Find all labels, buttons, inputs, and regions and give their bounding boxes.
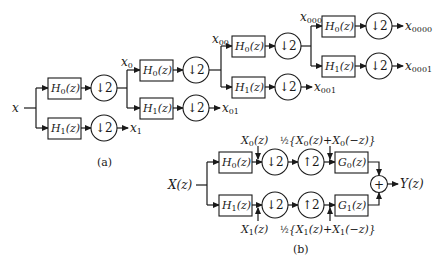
downsample-label: ↓2 (95, 81, 113, 95)
wire (368, 193, 379, 205)
downsample-label: ↓2 (279, 80, 297, 94)
h0-analysis-filter-label: H0(z) (221, 156, 251, 170)
annotation-X1: X1(z) (240, 223, 268, 237)
signal-x0000: x0000 (405, 19, 432, 34)
input-x-label: x (12, 101, 19, 115)
upsample-label: ↑2 (302, 198, 320, 212)
downsample-label: ↓2 (187, 63, 205, 77)
signal-x0001: x0001 (405, 59, 432, 74)
downsample-label: ↓2 (279, 39, 297, 53)
g0-synthesis-filter-label: G0(z) (338, 156, 366, 170)
h1-filter-stage3-label: H1(z) (234, 81, 264, 95)
g1-synthesis-filter-label: G1(z) (338, 199, 366, 213)
downsample-label: ↓2 (187, 101, 205, 115)
upsample-label: ↑2 (302, 155, 320, 169)
output-Yz-label: Y(z) (400, 177, 424, 191)
downsample-label: ↓2 (95, 121, 113, 135)
filter-bank-diagram: x H0(z) ↓2 H1(z) ↓2 x1 x0 H0(z) ↓2 H1(z) (0, 0, 444, 273)
signal-x00: x00 (212, 32, 229, 47)
caption-a: (a) (97, 156, 112, 169)
signal-x000: x000 (300, 10, 322, 25)
downsample-label: ↓2 (370, 59, 388, 73)
sum-label: + (374, 178, 384, 192)
wire (368, 162, 379, 175)
h1-filter-stage4-label: H1(z) (324, 60, 354, 74)
signal-x001: x001 (314, 80, 336, 95)
annotation-X0: X0(z) (240, 134, 268, 148)
h1-filter-stage1-label: H1(z) (50, 122, 80, 136)
signal-x1: x1 (130, 121, 142, 136)
signal-x01: x01 (222, 101, 239, 116)
downsample-label: ↓2 (266, 155, 284, 169)
signal-x0: x0 (121, 55, 133, 70)
h0-filter-stage3-label: H0(z) (234, 40, 264, 54)
caption-b: (b) (293, 243, 309, 256)
h1-analysis-filter-label: H1(z) (221, 199, 251, 213)
annotation-half-X0: ½{X0(z)+X0(−z)} (280, 134, 376, 148)
input-Xz-label: X(z) (167, 178, 193, 192)
h1-filter-stage2-label: H1(z) (142, 102, 172, 116)
h0-filter-stage4-label: H0(z) (324, 20, 354, 34)
diagram-b: X(z) H0(z) ↓2 ↑2 G0(z) H1(z) ↓2 ↑2 G1(z) (167, 134, 424, 256)
annotation-half-X1: ½{X1(z)+X1(−z)} (280, 223, 376, 237)
downsample-label: ↓2 (370, 19, 388, 33)
h0-filter-stage1-label: H0(z) (50, 82, 80, 96)
h0-filter-stage2-label: H0(z) (142, 64, 172, 78)
downsample-label: ↓2 (266, 198, 284, 212)
